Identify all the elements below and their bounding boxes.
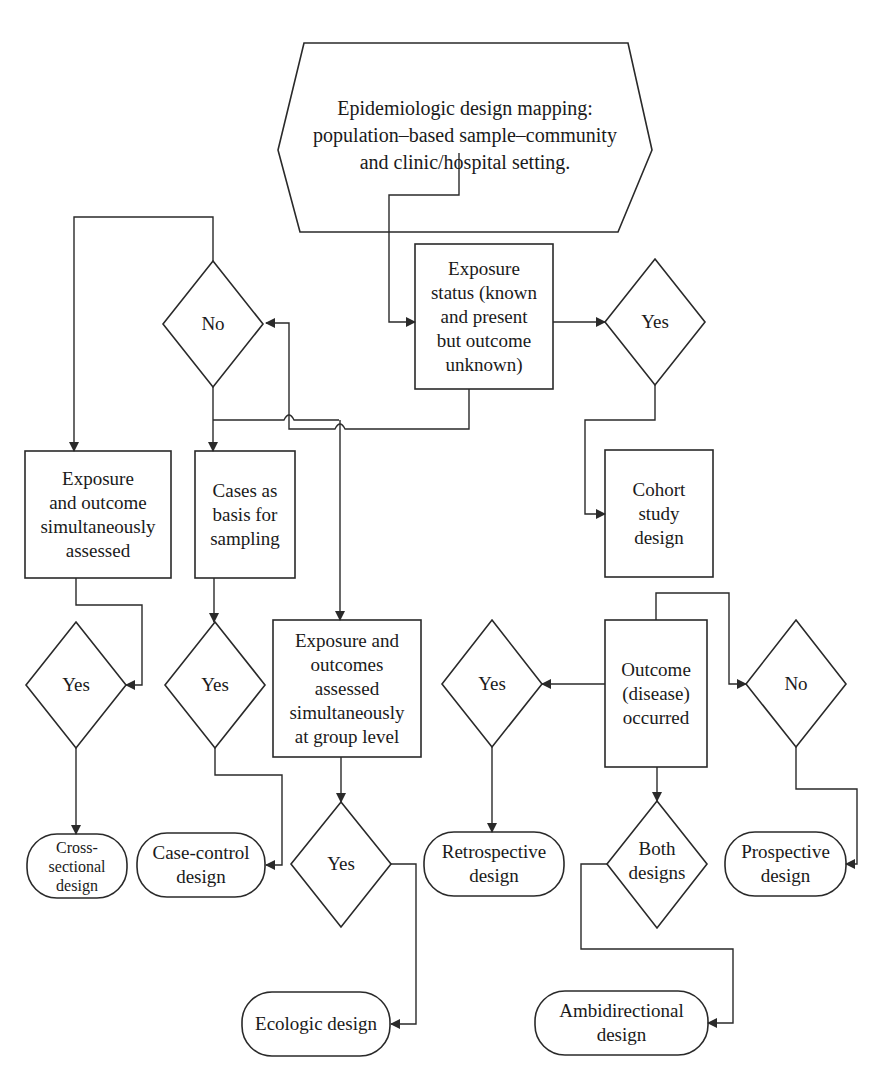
decision-yes-top-label: Yes (605, 308, 705, 336)
label-line: Exposure and (295, 629, 399, 653)
exposure-status-label: Exposure status (known and present but o… (415, 244, 553, 389)
label-line: and outcome (49, 491, 147, 515)
label-line: Ambidirectional (559, 999, 684, 1023)
label-line: outcomes (311, 653, 384, 677)
decision-both-label: Both designs (607, 834, 707, 888)
label-line: but outcome (437, 329, 531, 353)
terminal-prospective-label: Prospective design (725, 832, 846, 896)
terminal-retrospective-label: Retrospective design (424, 832, 564, 896)
label-line: unknown) (445, 353, 522, 377)
label-line: and present (440, 305, 527, 329)
label-line: at group level (295, 725, 399, 749)
label-line: study (638, 502, 679, 526)
label-line: sampling (210, 527, 280, 551)
decision-no-top-label: No (163, 310, 263, 338)
label-line: design (176, 865, 226, 889)
label-line: basis for (213, 503, 278, 527)
label-line: sectional (49, 857, 106, 876)
label-line: Case-control (152, 841, 249, 865)
label-line: Cases as (213, 479, 278, 503)
terminal-case-control-label: Case-control design (137, 833, 265, 897)
start-line: population–based sample–community (313, 122, 617, 149)
label-line: Cohort (633, 478, 686, 502)
decision-yes-ecologic-label: Yes (291, 850, 391, 878)
label-line: designs (629, 861, 686, 885)
start-line: and clinic/hospital setting. (360, 149, 571, 176)
decision-yes-retro-label: Yes (442, 670, 542, 698)
label-line: assessed (315, 677, 379, 701)
label-line: design (761, 864, 811, 888)
terminal-ecologic-label: Ecologic design (242, 992, 390, 1056)
decision-yes-case-label: Yes (165, 671, 265, 699)
decision-no-prospective-label: No (746, 670, 846, 698)
label-line: Ecologic design (255, 1012, 377, 1036)
label-line: occurred (623, 706, 689, 730)
label-line: simultaneously (289, 701, 404, 725)
outcome-occurred-label: Outcome (disease) occurred (605, 620, 707, 767)
label-line: design (634, 526, 684, 550)
terminal-ambidirectional-label: Ambidirectional design (535, 991, 708, 1055)
label-line: Outcome (621, 658, 691, 682)
label-line: (disease) (622, 682, 690, 706)
label-line: design (597, 1023, 647, 1047)
label-line: design (56, 876, 98, 895)
exposure-outcome-label: Exposure and outcome simultaneously asse… (25, 451, 171, 578)
label-line: simultaneously (40, 515, 155, 539)
label-line: Retrospective (442, 840, 546, 864)
label-line: Exposure (448, 257, 520, 281)
connector (391, 864, 416, 1024)
label-line: Exposure (62, 467, 134, 491)
label-line: status (known (431, 281, 537, 305)
cohort-label: Cohort study design (605, 450, 713, 577)
label-line: Cross- (56, 838, 98, 857)
group-level-label: Exposure and outcomes assessed simultane… (273, 620, 421, 757)
label-line: Both (639, 837, 676, 861)
label-line: assessed (66, 539, 130, 563)
start-line: Epidemiologic design mapping: (337, 95, 593, 122)
label-line: Prospective (741, 840, 830, 864)
connector (213, 415, 339, 420)
terminal-cross-sectional-label: Cross- sectional design (27, 834, 127, 898)
decision-yes-cross-label: Yes (26, 671, 126, 699)
cases-sampling-label: Cases as basis for sampling (195, 451, 295, 578)
start-label: Epidemiologic design mapping: population… (290, 80, 640, 190)
label-line: design (469, 864, 519, 888)
